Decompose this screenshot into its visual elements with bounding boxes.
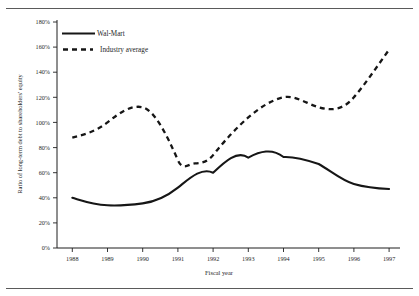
y-tick-label: 80% <box>39 144 50 151</box>
y-tick-label: 100% <box>36 119 50 126</box>
y-tick-label: 160% <box>36 43 50 50</box>
x-tick-label: 1989 <box>101 255 113 262</box>
y-tick-label: 140% <box>36 68 50 75</box>
y-tick-label: 120% <box>36 94 50 101</box>
line-chart: 0% 20% 40% 60% 80% 100% 120% 140% 160% 1… <box>0 0 419 296</box>
x-tick-label: 1990 <box>137 255 149 262</box>
y-axis-tick-labels: 0% 20% 40% 60% 80% 100% 120% 140% 160% 1… <box>36 18 50 251</box>
x-tick-label: 1993 <box>242 255 254 262</box>
x-tick-label: 1994 <box>277 255 289 262</box>
y-axis-ticks <box>53 22 57 248</box>
x-tick-label: 1995 <box>313 255 325 262</box>
legend-label-walmart: Wal-Mart <box>97 30 125 38</box>
series-line-walmart <box>72 151 389 205</box>
y-tick-label: 0% <box>42 244 50 251</box>
x-axis-tick-labels: 1988 1989 1990 1991 1992 1993 1994 1995 … <box>66 255 395 262</box>
x-tick-label: 1991 <box>172 255 184 262</box>
y-tick-label: 180% <box>36 18 50 25</box>
chart-legend: Wal-Mart Industry average <box>62 30 148 54</box>
series-line-industry-average <box>72 50 389 167</box>
y-tick-label: 60% <box>39 169 50 176</box>
x-tick-label: 1996 <box>348 255 360 262</box>
y-axis-title: Ratio of long-term debt to shareholders'… <box>16 74 23 194</box>
chart-figure: 0% 20% 40% 60% 80% 100% 120% 140% 160% 1… <box>0 0 419 296</box>
x-tick-label: 1988 <box>66 255 78 262</box>
x-axis-title: Fiscal year <box>205 269 234 276</box>
legend-label-industry-average: Industry average <box>100 46 148 54</box>
x-tick-label: 1992 <box>207 255 219 262</box>
x-tick-label: 1997 <box>383 255 395 262</box>
y-tick-label: 20% <box>39 219 50 226</box>
y-tick-label: 40% <box>39 194 50 201</box>
x-axis-ticks <box>72 248 389 252</box>
